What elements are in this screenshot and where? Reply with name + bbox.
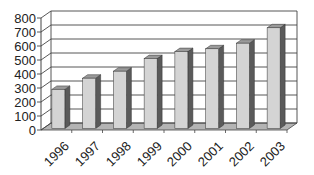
bar-side [188,48,193,128]
bar-side [157,55,162,128]
bar-2003 [267,28,280,129]
y-tick-label: 800 [6,12,36,25]
bar-side [280,24,285,128]
y-tick-label: 700 [6,26,36,39]
bar-side [65,86,70,129]
bar-2000 [175,52,188,129]
y-tick-label: 400 [6,68,36,81]
gridline-side [41,25,51,32]
bar-chart: 0100200300400500600700800 19961997199819… [0,0,314,175]
y-tick-label: 600 [6,40,36,53]
gridline-side [41,109,51,116]
bar-1998 [113,71,126,128]
gridline-side [41,11,51,18]
gridline-side [41,67,51,74]
y-tick-label: 500 [6,54,36,67]
bar-1997 [83,78,96,128]
bar-side [219,45,224,128]
y-tick-label: 200 [6,96,36,109]
bar-2001 [206,49,219,129]
bar-1996 [52,89,65,128]
bar-1999 [144,59,157,129]
gridline-side [41,53,51,60]
bar-2002 [236,43,249,128]
gridline-side [41,81,51,88]
bar-side [126,68,131,129]
y-tick-label: 100 [6,110,36,123]
gridline-side [41,95,51,102]
y-tick-label: 0 [6,124,36,137]
bar-side [249,40,254,129]
gridline-side [41,39,51,46]
y-tick-label: 300 [6,82,36,95]
chart-floor [41,123,297,130]
bar-side [96,75,101,129]
